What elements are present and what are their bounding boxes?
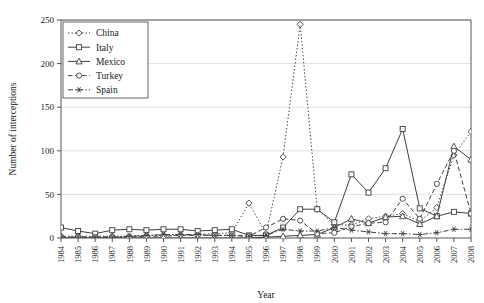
data-point-square (110, 228, 115, 233)
data-point-square (229, 227, 234, 232)
data-point-square (400, 127, 405, 132)
x-tick-label: 1998 (295, 246, 305, 263)
line-chart: 0501001502002501984198519861987198819891… (0, 0, 484, 303)
x-tick-label: 2005 (415, 246, 425, 263)
x-tick-label: 2008 (466, 246, 476, 263)
data-point-square (349, 172, 354, 177)
data-point-square (383, 166, 388, 171)
x-tick-label: 1985 (73, 246, 83, 263)
data-point-square (298, 207, 303, 212)
data-point-circle (366, 221, 371, 226)
y-axis-title: Number of interceptions (8, 82, 18, 175)
data-point-square (315, 207, 320, 212)
data-point-star (417, 232, 423, 237)
x-tick-label: 1990 (159, 246, 169, 263)
legend-label: Italy (96, 43, 114, 53)
x-tick-label: 1996 (261, 246, 271, 263)
legend-label: China (96, 28, 119, 38)
y-tick-label: 0 (50, 233, 55, 243)
data-point-square (76, 229, 81, 234)
y-tick-label: 50 (45, 190, 55, 200)
data-point-circle (434, 181, 439, 186)
data-point-square (366, 190, 371, 195)
data-point-diamond (468, 129, 474, 135)
data-point-star (400, 231, 406, 236)
data-point-circle (451, 148, 456, 153)
data-point-diamond (280, 154, 286, 160)
data-point-circle (349, 224, 354, 229)
x-tick-label: 2006 (432, 246, 442, 263)
data-point-square (417, 206, 422, 211)
data-point-triangle (348, 216, 354, 222)
legend-label: Turkey (96, 71, 123, 81)
y-tick-label: 150 (41, 102, 55, 112)
x-tick-label: 1989 (142, 246, 152, 263)
data-point-diamond (246, 200, 252, 206)
data-point-square (127, 227, 132, 232)
data-point-circle (468, 211, 473, 216)
y-tick-label: 200 (41, 59, 55, 69)
x-tick-label: 1993 (210, 246, 220, 263)
data-point-square (144, 228, 149, 233)
data-point-circle (400, 196, 405, 201)
data-point-circle (280, 216, 285, 221)
x-tick-label: 1987 (107, 246, 117, 263)
x-tick-label: 2004 (398, 245, 408, 263)
x-tick-label: 2007 (449, 246, 459, 263)
x-tick-label: 2001 (347, 246, 357, 263)
x-tick-label: 2002 (364, 246, 374, 263)
data-point-circle (263, 225, 268, 230)
x-tick-label: 1995 (244, 246, 254, 263)
chart-container: 0501001502002501984198519861987198819891… (0, 0, 484, 303)
data-point-star (434, 230, 440, 235)
x-tick-label: 1994 (227, 245, 237, 263)
y-tick-label: 250 (41, 15, 55, 25)
data-point-square (451, 209, 456, 214)
series-line (61, 151, 471, 237)
x-tick-label: 2000 (330, 246, 340, 263)
x-tick-label: 1984 (56, 245, 66, 263)
data-point-square (59, 225, 64, 230)
legend-marker-circle (76, 73, 81, 78)
data-point-square (178, 227, 183, 232)
data-point-circle (383, 220, 388, 225)
series-turkey (58, 148, 473, 240)
x-tick-label: 1992 (193, 246, 203, 263)
data-point-star (383, 231, 389, 236)
x-tick-label: 1986 (90, 246, 100, 263)
data-point-circle (417, 216, 422, 221)
series-italy (59, 127, 474, 238)
x-tick-label: 1999 (312, 246, 322, 263)
x-tick-label: 1988 (125, 246, 135, 263)
data-point-triangle (468, 156, 474, 162)
data-point-circle (332, 230, 337, 235)
x-tick-label: 1997 (278, 246, 288, 263)
legend-label: Mexico (96, 57, 125, 67)
x-tick-label: 1991 (176, 246, 186, 263)
data-point-square (212, 228, 217, 233)
data-point-diamond (297, 21, 303, 27)
data-point-star (451, 227, 457, 232)
y-tick-label: 100 (41, 146, 55, 156)
data-point-square (161, 227, 166, 232)
x-tick-label: 2003 (381, 246, 391, 263)
x-axis-title: Year (257, 290, 275, 300)
data-point-star (366, 229, 372, 234)
legend-label: Spain (96, 85, 118, 95)
legend: ChinaItalyMexicoTurkeySpain (63, 22, 148, 98)
data-point-circle (298, 218, 303, 223)
legend-marker-square (77, 45, 82, 50)
